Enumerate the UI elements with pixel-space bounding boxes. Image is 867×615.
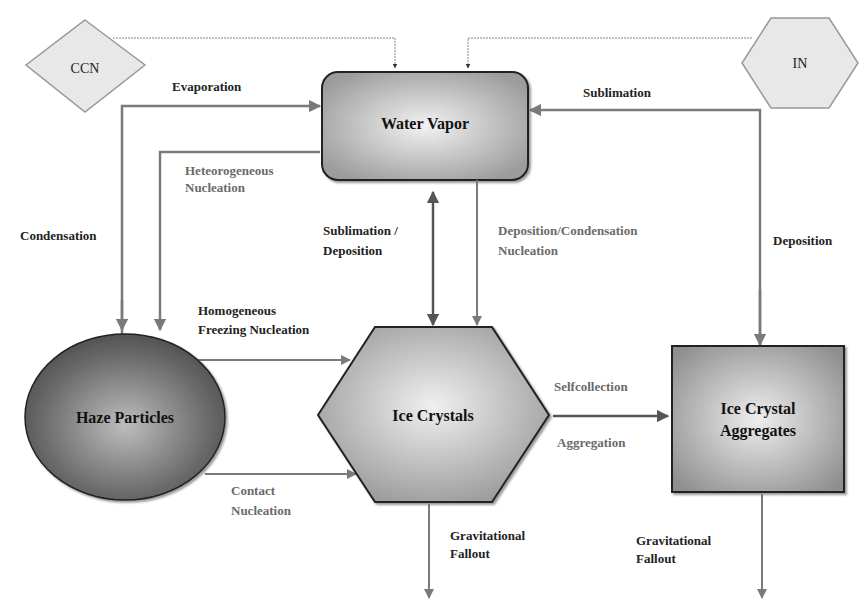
heterogeneous-nucleation-label-1: Heteorogeneous — [185, 163, 274, 178]
haze-particles-label: Haze Particles — [76, 409, 174, 426]
homogeneous-freezing-label-2: Freezing Nucleation — [198, 322, 310, 337]
contact-nucleation-label-2: Nucleation — [231, 503, 292, 518]
evaporation-label: Evaporation — [172, 79, 242, 94]
in-to-water-vapor-edge — [468, 38, 752, 68]
heterogeneous-nucleation-label-2: Nucleation — [185, 180, 246, 195]
aggregates-label-2: Aggregates — [720, 422, 796, 440]
water-vapor-label: Water Vapor — [381, 115, 469, 133]
homogeneous-freezing-label-1: Homogeneous — [198, 303, 276, 318]
gravitational-fallout-agg-label-2: Fallout — [636, 551, 676, 566]
contact-nucleation-label-1: Contact — [231, 483, 276, 498]
sublimation-label: Sublimation — [583, 85, 652, 100]
ccn-label: CCN — [71, 61, 100, 76]
ice-crystal-aggregates-node — [672, 346, 844, 492]
gravitational-fallout-ice-label-2: Fallout — [450, 546, 490, 561]
ice-crystals-label: Ice Crystals — [392, 407, 473, 425]
ccn-to-water-vapor-edge — [113, 38, 395, 68]
cloud-microphysics-diagram: CCN IN Evaporation Heteorogeneous Nuclea… — [0, 0, 867, 615]
deposition-condensation-label-1: Deposition/Condensation — [498, 223, 638, 238]
gravitational-fallout-agg-label-1: Gravitational — [636, 533, 711, 548]
selfcollection-label: Selfcollection — [554, 379, 628, 394]
aggregates-label-1: Ice Crystal — [720, 400, 796, 418]
sublimation-deposition-label-1: Sublimation / — [323, 223, 398, 238]
condensation-label: Condensation — [20, 228, 97, 243]
in-node: IN — [742, 18, 858, 108]
deposition-condensation-label-2: Nucleation — [498, 243, 559, 258]
ccn-node: CCN — [26, 20, 145, 112]
gravitational-fallout-ice-label-1: Gravitational — [450, 528, 525, 543]
aggregation-label: Aggregation — [557, 435, 626, 450]
deposition-right-label: Deposition — [773, 233, 833, 248]
sublimation-deposition-label-2: Deposition — [323, 243, 383, 258]
in-label: IN — [793, 56, 808, 71]
